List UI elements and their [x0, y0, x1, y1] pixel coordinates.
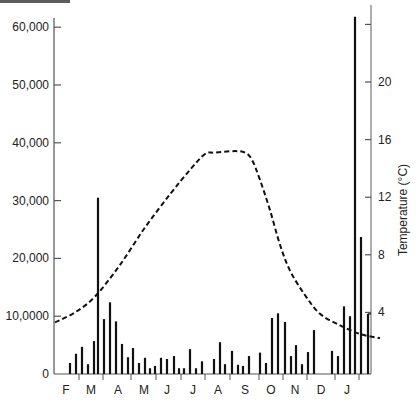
left-axis-tick-label: 40,000	[12, 136, 49, 150]
left-axis-tick-label: 0	[42, 367, 49, 381]
month-label: A	[114, 383, 122, 397]
x-axis: FMAMJJASONDJ	[54, 374, 371, 397]
month-label: A	[214, 383, 222, 397]
month-label: F	[62, 383, 69, 397]
month-label: O	[266, 383, 275, 397]
month-label: J	[164, 383, 170, 397]
right-axis-tick-label: 8	[378, 248, 385, 262]
left-axis-tick-label: 50,000	[12, 78, 49, 92]
month-label: J	[344, 383, 350, 397]
right-axis-tick-label: 20	[378, 75, 392, 89]
right-axis-tick-label: 16	[378, 133, 392, 147]
left-axis: 010,000020,00030,00040,00050,00060,000	[6, 18, 61, 381]
right-axis-tick-label: 12	[378, 190, 392, 204]
chart: 010,000020,00030,00040,00050,00060,000 4…	[0, 0, 419, 403]
left-axis-tick-label: 30,000	[12, 194, 49, 208]
month-label: D	[317, 383, 326, 397]
month-label: M	[139, 383, 149, 397]
month-label: N	[291, 383, 300, 397]
right-axis-title: Temperature (°C)	[396, 164, 410, 256]
left-axis-tick-label: 10,0000	[6, 309, 50, 323]
bar-series	[70, 17, 371, 374]
month-label: M	[86, 383, 96, 397]
month-label: S	[241, 383, 249, 397]
left-axis-tick-label: 60,000	[12, 20, 49, 34]
right-axis-tick-label: 4	[378, 305, 385, 319]
left-axis-tick-label: 20,000	[12, 251, 49, 265]
month-label: J	[190, 383, 196, 397]
temperature-line	[55, 151, 380, 338]
